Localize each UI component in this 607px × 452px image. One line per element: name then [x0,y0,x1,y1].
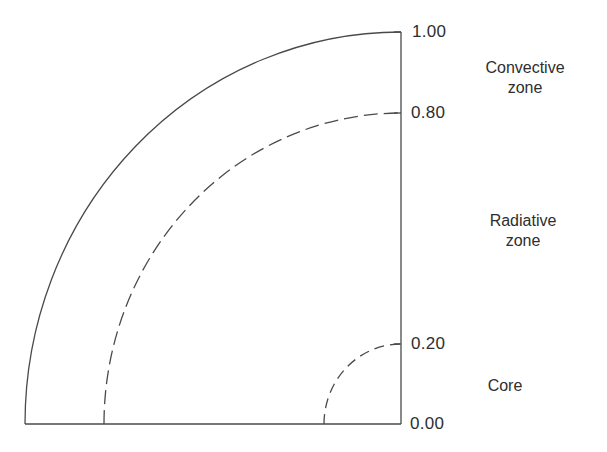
outer-boundary-arc [25,32,401,424]
radiative-zone-label-line2: zone [475,231,571,251]
convective-zone-label-line1: Convective [470,58,580,78]
core-label: Core [478,376,532,396]
tick-label-0-00: 0.00 [410,414,444,434]
convective-zone-label: Convective zone [470,58,580,98]
radiative-zone-label-line1: Radiative [475,211,571,231]
radiative-zone-label: Radiative zone [475,211,571,251]
convective-radiative-boundary-arc [104,113,401,424]
tick-label-0-80: 0.80 [411,103,445,123]
tick-label-1-00: 1.00 [412,22,446,42]
tick-label-0-20: 0.20 [411,334,445,354]
core-label-line1: Core [478,376,532,396]
core-boundary-arc [324,344,401,424]
convective-zone-label-line2: zone [470,78,580,98]
